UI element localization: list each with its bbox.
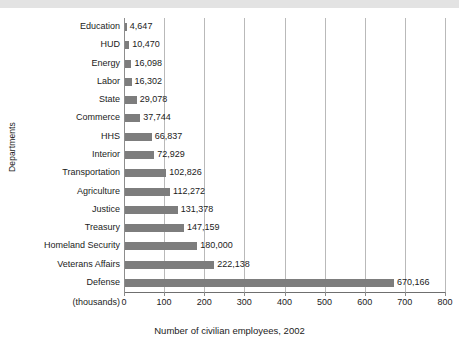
bar-value-label: 112,272 [173,187,205,196]
x-tick-label-500: 500 [305,297,345,307]
bar-value-label: 670,166 [397,278,430,287]
bar-value-label: 29,078 [140,95,168,104]
category-label-list: EducationHUDEnergyLaborStateCommerceHHSI… [0,18,120,292]
bar-value-label: 180,000 [200,241,233,250]
x-tick-label-800: 800 [425,297,459,307]
x-tick-label-600: 600 [345,297,385,307]
gridline-300 [244,18,245,292]
x-tick-300 [244,292,245,296]
bar-value-label: 16,302 [135,77,163,86]
bar [125,169,166,177]
gridline-700 [405,18,406,292]
x-tick-800 [445,292,446,296]
bar-value-label: 10,470 [132,40,160,49]
category-label: HHS [2,132,120,141]
bar [125,78,132,86]
bar-value-label: 222,138 [217,260,250,269]
category-label: Energy [2,59,120,68]
category-label: HUD [2,40,120,49]
x-tick-100 [164,292,165,296]
bar [125,206,178,214]
bar [125,133,152,141]
x-tick-label-200: 200 [184,297,224,307]
top-gray-band [0,0,459,8]
bar [125,242,197,250]
category-label: Labor [2,77,120,86]
bar-value-label: 131,378 [181,205,214,214]
bar-value-label: 102,826 [169,168,202,177]
bar [125,96,137,104]
bar [125,261,214,269]
category-label: Interior [2,150,120,159]
category-label: State [2,95,120,104]
x-tick-label-700: 700 [385,297,425,307]
bar [125,151,154,159]
bar-value-label: 4,647 [130,22,153,31]
gridline-600 [365,18,366,292]
gridline-500 [325,18,326,292]
category-label: Homeland Security [2,241,120,250]
x-tick-400 [285,292,286,296]
bar-value-label: 16,098 [134,59,162,68]
x-tick-label-100: 100 [144,297,184,307]
category-label: Agriculture [2,187,120,196]
x-tick-600 [365,292,366,296]
bar [125,23,127,31]
bar-value-label: 72,929 [157,150,185,159]
category-label: Defense [2,278,120,287]
bar [125,41,129,49]
category-label: Treasury [2,223,120,232]
gridline-200 [204,18,205,292]
gridline-800 [445,18,446,292]
x-tick-200 [204,292,205,296]
chart-figure: Departments EducationHUDEnergyLaborState… [0,0,459,348]
bar-value-label: 66,837 [155,132,183,141]
bar [125,188,170,196]
x-tick-label-400: 400 [265,297,305,307]
category-label: Education [2,22,120,31]
category-label: Justice [2,205,120,214]
bar [125,60,131,68]
x-axis-title: Number of civilian employees, 2002 [0,325,459,336]
x-tick-label-0: 0 [104,297,144,307]
x-tick-700 [405,292,406,296]
category-label: Transportation [2,168,120,177]
bar [125,224,184,232]
plot-area: 4,64710,47016,09816,30229,07837,74466,83… [124,18,445,292]
bar-value-label: 37,744 [143,113,171,122]
gridline-400 [285,18,286,292]
x-tick-label-300: 300 [224,297,264,307]
x-tick-0 [124,292,125,296]
category-label: Commerce [2,113,120,122]
x-tick-500 [325,292,326,296]
bar [125,114,140,122]
category-label: Veterans Affairs [2,260,120,269]
bar [125,279,394,287]
bar-value-label: 147,159 [187,223,220,232]
